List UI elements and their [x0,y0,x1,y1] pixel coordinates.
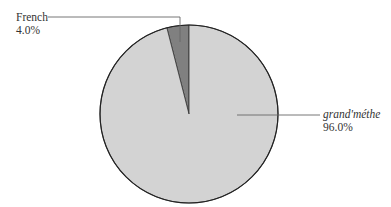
label-grand-pct: 96.0% [323,121,380,134]
label-grand-name: grand'méthe [323,108,380,121]
label-french-pct: 4.0% [16,24,48,37]
label-french-name: French [16,11,48,24]
pie-slice-grand-m-the [100,25,278,203]
pie-slices [100,25,278,203]
pie-chart [0,0,391,207]
label-grand: grand'méthe 96.0% [323,108,380,134]
label-french: French 4.0% [16,11,48,37]
